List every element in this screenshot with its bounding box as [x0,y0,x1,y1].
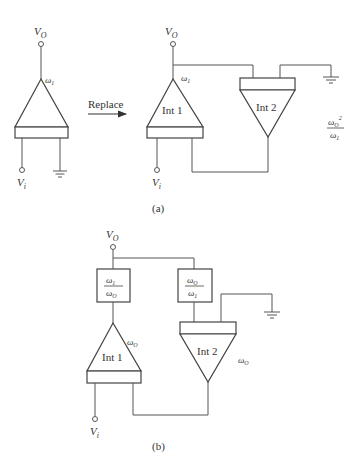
int1-label: Int 1 [102,351,122,363]
part-a-replacement: VO ω1 Int 1 Vi Int 2 ωO2 ω1 [147,25,344,191]
gain-label: ω1 [181,73,190,84]
int2-gain-fraction: ωO2 ω1 [327,115,344,141]
int1-label: Int 1 [162,104,182,116]
amplifier-triangle-icon [15,79,68,127]
int2-base [240,78,295,90]
vi-label: Vi [17,176,26,191]
int2-base [180,322,236,334]
int2-triangle-icon [180,334,236,382]
int2-gain: ωO [238,355,249,366]
input-terminal-icon [20,168,25,173]
vi-label: Vi [152,176,161,191]
int1-triangle-icon [147,79,203,127]
ground-icon [264,312,280,318]
ground-icon [323,77,339,83]
amplifier-base [15,127,68,138]
caption-b: (b) [152,440,165,453]
part-b-circuit: VO ω1 ωO ωO ω1 Int 1 ωO Vi Int 2 ωO [87,228,280,440]
output-terminal-icon [39,42,44,47]
int2-label: Int 2 [197,345,217,357]
output-terminal-icon [111,245,116,250]
svg-text:ω1: ω1 [330,130,339,141]
int2-triangle-icon [240,90,295,137]
circuit-diagram: VO ω1 Vi Replace VO ω1 Int 1 Vi Int [0,0,358,467]
ground-icon [53,171,67,177]
gain-label: ω1 [45,75,54,86]
replace-label: Replace [88,98,124,110]
int1-gain: ωO [127,337,138,348]
part-a-original-amplifier: VO ω1 Vi [15,25,68,191]
caption-a: (a) [152,202,165,215]
int1-base [87,371,141,383]
int1-base [147,127,203,138]
vo-label: VO [34,25,47,40]
vo-label: VO [165,25,178,40]
vi-label: Vi [90,425,99,440]
int2-label: Int 2 [256,101,276,113]
input-terminal-icon [93,417,98,422]
input-terminal-icon [155,168,160,173]
svg-text:ωO2: ωO2 [328,115,342,128]
vo-label: VO [106,228,119,243]
output-terminal-icon [171,42,176,47]
